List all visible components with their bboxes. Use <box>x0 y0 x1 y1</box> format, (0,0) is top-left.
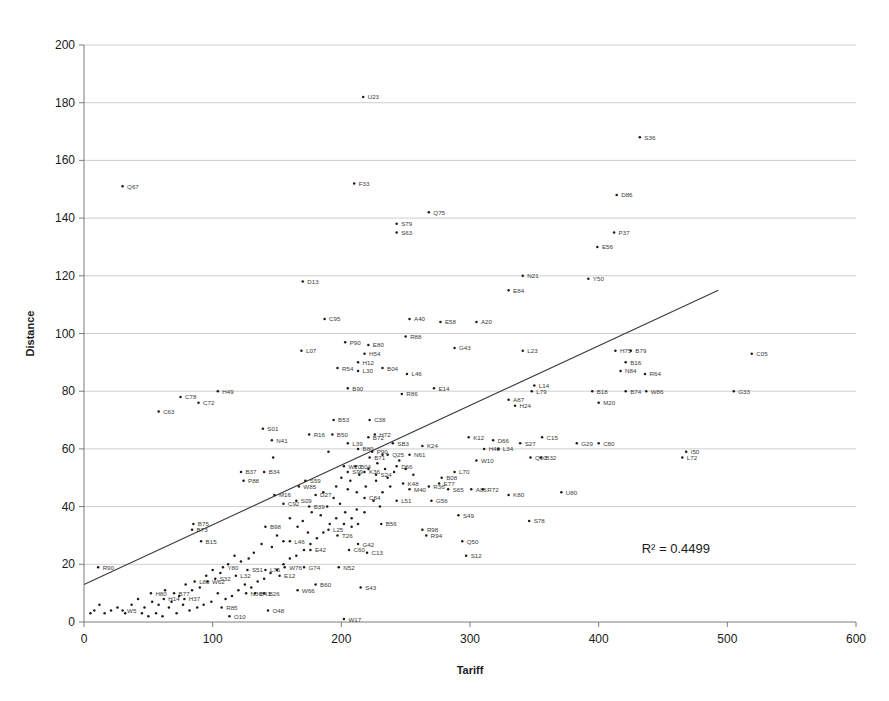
data-point <box>193 580 196 583</box>
data-point <box>507 289 510 292</box>
data-point-label: S12 <box>471 552 483 559</box>
data-point-label: B72 <box>373 434 385 441</box>
data-point <box>272 456 275 459</box>
data-point <box>591 390 594 393</box>
data-point-label: C15 <box>547 434 559 441</box>
data-point-label: B56 <box>386 520 398 527</box>
y-tick-label: 120 <box>55 269 75 283</box>
data-point-label: B71 <box>374 454 386 461</box>
data-point-label: S36 <box>644 134 656 141</box>
data-point-label: E12 <box>284 572 296 579</box>
data-point-label: B15 <box>206 538 218 545</box>
data-point <box>685 451 688 454</box>
data-point <box>408 318 411 321</box>
data-point <box>412 474 415 477</box>
x-tick-label: 200 <box>331 632 351 646</box>
data-point <box>343 523 346 526</box>
data-point <box>182 603 185 606</box>
data-point <box>475 321 478 324</box>
data-point-label: W86 <box>651 388 664 395</box>
data-point-label: B04 <box>387 365 399 372</box>
data-point <box>335 485 338 488</box>
data-point <box>217 592 220 595</box>
data-point-label: E42 <box>315 546 327 553</box>
data-point <box>428 485 431 488</box>
data-point <box>354 465 357 468</box>
data-point-label: L39 <box>352 440 363 447</box>
data-point <box>200 540 203 543</box>
data-point <box>522 350 525 353</box>
data-point <box>308 433 311 436</box>
data-point-label: S51 <box>252 566 264 573</box>
data-point <box>143 606 146 609</box>
data-point-label: D66 <box>401 463 413 470</box>
data-point <box>404 335 407 338</box>
data-point <box>363 511 366 514</box>
data-point <box>150 592 153 595</box>
data-point <box>596 246 599 249</box>
data-point-label: K24 <box>427 442 439 449</box>
data-point <box>296 589 299 592</box>
data-point <box>529 456 532 459</box>
data-point-label: D27 <box>320 491 332 498</box>
data-point <box>398 459 401 462</box>
data-point-label: R88 <box>410 333 422 340</box>
data-point <box>336 367 339 370</box>
data-point <box>733 390 736 393</box>
data-point <box>375 474 378 477</box>
data-point <box>210 601 213 604</box>
data-point-label: G43 <box>459 344 471 351</box>
data-point <box>183 598 186 601</box>
data-point <box>235 575 238 578</box>
data-point-label: Q67 <box>127 183 139 190</box>
data-point-label: M20 <box>603 399 616 406</box>
data-point <box>103 612 106 615</box>
y-tick-label: 180 <box>55 96 75 110</box>
chart-canvas: 0204060801001201401601802000100200300400… <box>0 0 889 701</box>
data-point <box>264 526 267 529</box>
data-point <box>179 396 182 399</box>
data-point <box>121 185 124 188</box>
data-point <box>482 488 485 491</box>
data-point <box>350 517 353 520</box>
data-point <box>298 485 301 488</box>
data-point <box>614 350 617 353</box>
data-point <box>367 468 370 471</box>
data-point <box>244 583 247 586</box>
data-point <box>357 370 360 373</box>
data-point <box>98 603 101 606</box>
data-point-label: C84 <box>369 494 381 501</box>
data-point <box>220 606 223 609</box>
data-point-label: L72 <box>687 454 698 461</box>
x-tick-label: 500 <box>717 632 737 646</box>
data-point <box>587 277 590 280</box>
data-point <box>344 511 347 514</box>
data-point <box>253 552 256 555</box>
data-point <box>224 598 227 601</box>
data-point-label: Q75 <box>433 209 445 216</box>
data-point <box>560 491 563 494</box>
data-point <box>386 477 389 480</box>
data-point <box>357 523 360 526</box>
data-point-label: R72 <box>487 486 499 493</box>
data-point <box>301 280 304 283</box>
data-point-label: K36 <box>369 468 381 475</box>
data-point-label: G33 <box>738 388 750 395</box>
data-point-label: W66 <box>302 587 315 594</box>
data-point <box>331 433 334 436</box>
data-point <box>327 451 330 454</box>
data-point-label: L34 <box>503 445 514 452</box>
data-point <box>457 514 460 517</box>
data-point <box>362 96 365 99</box>
data-point-label: S78 <box>534 517 546 524</box>
data-point <box>240 471 243 474</box>
data-point <box>192 523 195 526</box>
data-point <box>681 456 684 459</box>
data-point <box>276 534 279 537</box>
data-point <box>289 517 292 520</box>
data-point <box>421 445 424 448</box>
data-point-label: L14 <box>539 382 550 389</box>
data-point <box>353 182 356 185</box>
data-point-label: K12 <box>473 434 485 441</box>
data-point-label: A20 <box>481 318 493 325</box>
